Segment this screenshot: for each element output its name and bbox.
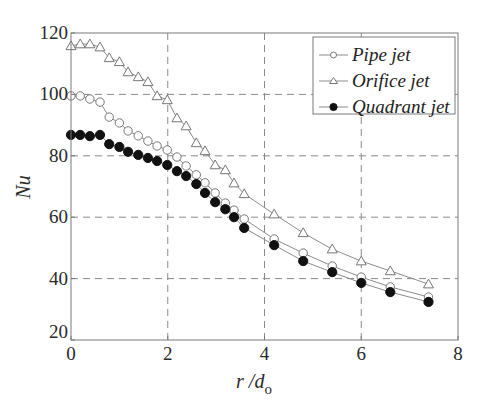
data-point [152, 91, 162, 100]
data-point [191, 138, 201, 147]
data-point [229, 178, 239, 187]
data-point [123, 147, 132, 156]
data-point [240, 215, 248, 223]
y-tick-label: 40 [49, 268, 68, 289]
nusselt-number-chart: 20406080100120 02468 Nu r /do Pipe jetOr… [0, 0, 483, 407]
y-axis-ticks: 20406080100120 [40, 22, 76, 342]
data-point [386, 288, 395, 297]
data-point [270, 241, 279, 250]
legend-label: Orifice jet [352, 70, 430, 91]
data-point [330, 103, 337, 110]
y-tick-label: 60 [49, 206, 68, 227]
data-point [173, 153, 181, 161]
data-point [192, 171, 200, 179]
data-point [192, 179, 201, 188]
data-point [240, 223, 249, 232]
data-point [172, 113, 182, 122]
data-point [221, 205, 230, 214]
series-pipe-jet [67, 92, 433, 301]
data-point [385, 266, 395, 275]
data-point [75, 39, 85, 48]
data-point [220, 165, 230, 174]
data-point [423, 279, 433, 288]
y-tick-label: 120 [40, 22, 69, 43]
data-point [327, 244, 337, 253]
y-tick-label: 80 [49, 145, 68, 166]
x-tick-label: 2 [163, 343, 173, 364]
data-point [134, 132, 142, 140]
data-point [86, 95, 94, 103]
data-point [163, 146, 171, 154]
data-point [424, 297, 433, 306]
data-point [115, 142, 124, 151]
data-point [162, 95, 172, 104]
data-point [153, 142, 161, 150]
data-point [298, 228, 308, 237]
x-tick-label: 6 [357, 343, 367, 364]
data-point [133, 72, 143, 81]
x-tick-label: 0 [66, 343, 76, 364]
data-point [95, 130, 104, 139]
data-point [114, 57, 124, 66]
data-point [124, 127, 132, 135]
data-point [182, 171, 191, 180]
data-point [134, 150, 143, 159]
data-point [143, 77, 153, 86]
data-point [163, 160, 172, 169]
data-point [153, 156, 162, 165]
data-point [328, 268, 337, 277]
data-point [76, 92, 84, 100]
data-point [299, 257, 308, 266]
data-point [211, 198, 220, 207]
data-point [85, 132, 94, 141]
data-point [115, 119, 123, 127]
data-point [229, 213, 238, 222]
data-point [269, 209, 279, 218]
data-point [201, 179, 209, 187]
legend-label: Pipe jet [351, 44, 411, 65]
data-point [182, 162, 190, 170]
data-point [211, 189, 219, 197]
data-point [357, 278, 366, 287]
y-tick-label: 20 [49, 321, 68, 342]
x-tick-label: 8 [453, 343, 463, 364]
data-point [144, 137, 152, 145]
data-point [105, 140, 114, 149]
data-point [143, 153, 152, 162]
data-point [210, 160, 220, 169]
series-quadrant-jet [66, 130, 433, 306]
legend-label: Quadrant jet [352, 96, 450, 117]
data-point [356, 256, 366, 265]
y-axis-label: Nu [12, 175, 34, 199]
data-point [331, 52, 337, 58]
data-point [76, 130, 85, 139]
data-point [85, 39, 95, 48]
x-axis-label: r /do [236, 370, 272, 397]
x-axis-label-subscript: o [264, 381, 272, 397]
data-point [105, 113, 113, 121]
x-tick-label: 4 [260, 343, 270, 364]
y-tick-label: 100 [40, 83, 69, 104]
data-point [172, 167, 181, 176]
data-point [200, 188, 209, 197]
legend: Pipe jetOrifice jetQuadrant jet [313, 37, 455, 117]
data-point [96, 98, 104, 106]
